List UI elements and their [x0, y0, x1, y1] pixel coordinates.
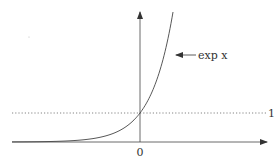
speck	[28, 36, 29, 37]
origin-label: 0	[137, 146, 144, 159]
exp-plot: exp x 1 0	[0, 0, 280, 164]
curve-label: exp x	[198, 49, 228, 62]
y-one-label: 1	[268, 107, 275, 120]
exp-curve	[12, 12, 173, 142]
